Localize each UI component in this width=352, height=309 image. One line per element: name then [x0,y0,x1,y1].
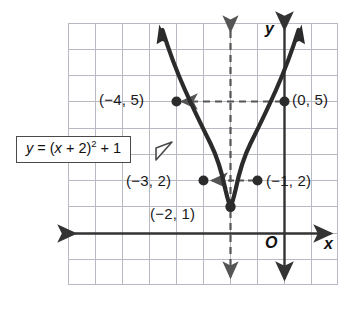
equation-equals: = ( [33,140,54,156]
point-label-neg3-2: (−3, 2) [126,172,171,189]
point-vertex-neg2-1 [225,202,235,212]
point-label-neg1-2: (−1, 2) [266,172,311,189]
point-label-0-5: (0, 5) [292,91,328,108]
parabola-figure: y = (x + 2)2 + 1 (−4, 5) (0, 5) (−3, 2) … [0,0,352,309]
point-0-5 [280,97,290,107]
point-neg3-2 [199,176,209,186]
point-label-neg4-5: (−4, 5) [99,91,144,108]
equation-label-box: y = (x + 2)2 + 1 [16,136,131,163]
point-label-vertex-neg2-1: (−2, 1) [150,205,195,222]
origin-label: O [265,234,278,252]
equation-mid: + 2) [62,140,91,156]
equation-tail: + 1 [97,140,122,156]
x-axis-label: x [324,235,333,253]
equation-variable: x [55,140,62,156]
y-axis-label: y [265,20,274,38]
parabola-left-arrow [157,25,169,45]
point-neg4-5 [172,97,182,107]
equation-callout-tail [156,142,172,160]
parabola-right-arrow [293,25,305,45]
point-neg1-2 [253,176,263,186]
